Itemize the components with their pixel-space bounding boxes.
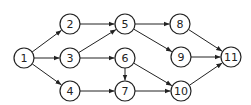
node-2: 2 [60,14,80,34]
node-9: 9 [171,47,191,67]
edge-5-to-9 [134,29,172,52]
edge-3-to-5 [79,30,117,53]
node-label: 5 [122,18,129,31]
diagram-canvas: 1234567891011 [0,0,251,105]
node-label: 11 [224,51,238,64]
node-10: 10 [171,81,191,101]
node-label: 1 [21,52,28,65]
node-label: 2 [67,18,74,31]
network-diagram: 1234567891011 [0,0,251,105]
node-label: 8 [177,18,184,31]
node-1: 1 [14,48,34,68]
node-label: 10 [174,85,188,98]
edge-1-to-4 [32,64,61,85]
node-label: 9 [178,51,185,64]
node-3: 3 [60,48,80,68]
node-6: 6 [115,48,135,68]
node-4: 4 [60,81,80,101]
node-11: 11 [221,47,241,67]
node-8: 8 [170,14,190,34]
node-7: 7 [115,81,135,101]
node-5: 5 [115,14,135,34]
edge-6-to-10 [134,63,172,86]
node-label: 4 [67,85,74,98]
edge-8-to-11 [188,29,222,51]
node-label: 6 [122,52,129,65]
node-label: 7 [122,85,129,98]
node-label: 3 [67,52,74,65]
edge-1-to-2 [32,30,62,52]
edge-10-to-11 [189,63,222,85]
